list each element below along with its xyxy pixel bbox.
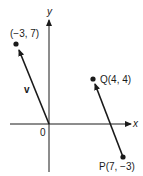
point-q-label: Q(4, 4) (100, 74, 131, 85)
point-q (90, 76, 95, 81)
point-a (13, 41, 18, 46)
origin-label: 0 (40, 127, 46, 138)
vector-v-label: v (24, 84, 30, 95)
x-axis-label: x (132, 118, 139, 129)
vector-pq (95, 84, 123, 157)
point-p-label: P(7, −3) (99, 161, 135, 172)
point-p (120, 154, 125, 159)
y-axis-label: y (46, 6, 53, 17)
vector-diagram: y x 0 (−3, 7) Q(4, 4) P(7, −3) v (0, 0, 143, 176)
point-a-label: (−3, 7) (10, 28, 39, 39)
